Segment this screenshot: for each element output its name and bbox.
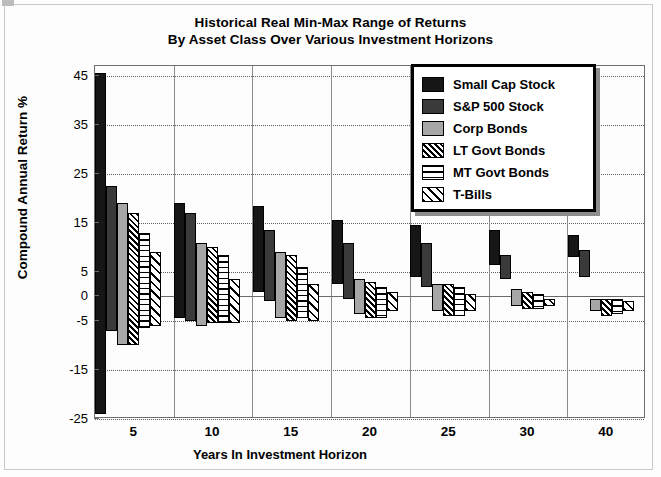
y-axis-ticks: 4535251550-5-15-25 <box>40 65 94 418</box>
range-bar <box>568 235 579 257</box>
legend-label: S&P 500 Stock <box>453 99 544 114</box>
horizontal-lines-swatch <box>422 165 444 180</box>
legend: Small Cap StockS&P 500 StockCorp BondsLT… <box>411 64 596 212</box>
range-bar <box>376 287 387 319</box>
range-bar <box>522 292 533 309</box>
gridline <box>95 419 644 420</box>
x-tick-label: 10 <box>205 424 220 439</box>
range-bar <box>612 299 623 314</box>
solid-dark-gray-swatch <box>422 99 444 114</box>
range-bar <box>365 282 376 319</box>
range-bar <box>410 225 421 276</box>
range-bar <box>128 213 139 345</box>
range-bar <box>590 299 601 311</box>
y-tick-label: 5 <box>48 263 94 278</box>
legend-item: MT Govt Bonds <box>422 161 585 183</box>
gridline <box>95 370 644 371</box>
y-tick-mark <box>94 222 99 223</box>
y-tick-label: 45 <box>48 67 94 82</box>
y-axis-label: Compound Annual Return % <box>15 38 30 338</box>
x-tick-label: 30 <box>519 424 534 439</box>
range-bar <box>511 289 522 306</box>
y-tick-label: 0 <box>48 288 94 303</box>
range-bar <box>196 243 207 326</box>
range-bar <box>544 299 555 306</box>
range-bar <box>106 186 117 331</box>
legend-label: T-Bills <box>453 187 492 202</box>
y-tick-label: -5 <box>48 312 94 327</box>
title-line-2: By Asset Class Over Various Investment H… <box>0 31 661 48</box>
range-bar <box>454 287 465 316</box>
range-bar <box>218 255 229 324</box>
range-bar <box>443 284 454 316</box>
x-tick-label: 5 <box>130 424 138 439</box>
range-bar <box>185 213 196 321</box>
y-tick-mark <box>94 418 99 419</box>
range-bar <box>275 252 286 318</box>
chart-title: Historical Real Min-Max Range of Returns… <box>0 14 661 48</box>
range-bar <box>229 279 240 323</box>
range-bar <box>297 267 308 318</box>
legend-label: LT Govt Bonds <box>453 143 545 158</box>
legend-item: Corp Bonds <box>422 117 585 139</box>
range-bar <box>253 206 264 292</box>
range-bar <box>286 255 297 321</box>
dense-hatch-swatch <box>422 143 444 158</box>
solid-mid-gray-swatch <box>422 121 444 136</box>
chart-canvas: Historical Real Min-Max Range of Returns… <box>0 0 661 477</box>
y-tick-label: -25 <box>48 411 94 426</box>
range-bar <box>308 284 319 321</box>
range-bar <box>500 255 511 280</box>
range-bar <box>579 250 590 277</box>
y-tick-label: 35 <box>48 116 94 131</box>
range-bar <box>354 279 365 313</box>
range-bar <box>264 230 275 301</box>
title-line-1: Historical Real Min-Max Range of Returns <box>0 14 661 31</box>
range-bar <box>465 294 476 311</box>
range-bar <box>533 294 544 309</box>
legend-item: S&P 500 Stock <box>422 95 585 117</box>
y-tick-mark <box>94 320 99 321</box>
range-bar <box>623 301 634 311</box>
range-bar <box>150 252 161 326</box>
x-tick-label: 20 <box>362 424 377 439</box>
range-bar <box>432 284 443 311</box>
range-bar <box>117 203 128 345</box>
legend-label: MT Govt Bonds <box>453 165 549 180</box>
legend-item: LT Govt Bonds <box>422 139 585 161</box>
range-bar <box>343 243 354 299</box>
gridline <box>95 321 644 322</box>
y-tick-label: -15 <box>48 361 94 376</box>
range-bar <box>207 247 218 323</box>
legend-item: Small Cap Stock <box>422 73 585 95</box>
solid-black-swatch <box>422 77 444 92</box>
y-tick-mark <box>94 295 99 296</box>
range-bar <box>387 292 398 312</box>
range-bar <box>332 220 343 284</box>
light-hatch-swatch <box>422 187 444 202</box>
x-tick-label: 25 <box>441 424 456 439</box>
legend-label: Small Cap Stock <box>453 77 555 92</box>
y-tick-label: 25 <box>48 165 94 180</box>
x-axis-label: Years In Investment Horizon <box>0 447 560 462</box>
y-tick-mark <box>94 124 99 125</box>
range-bar <box>489 230 500 264</box>
y-tick-mark <box>94 75 99 76</box>
range-bar <box>139 233 150 329</box>
range-bar <box>601 299 612 316</box>
range-bar <box>421 243 432 287</box>
legend-item: T-Bills <box>422 183 585 205</box>
x-tick-label: 15 <box>283 424 298 439</box>
scan-artifact <box>2 0 14 6</box>
y-tick-label: 15 <box>48 214 94 229</box>
y-tick-mark <box>94 271 99 272</box>
y-tick-mark <box>94 173 99 174</box>
legend-label: Corp Bonds <box>453 121 527 136</box>
x-tick-label: 40 <box>598 424 613 439</box>
y-tick-mark <box>94 369 99 370</box>
range-bar <box>174 203 185 318</box>
